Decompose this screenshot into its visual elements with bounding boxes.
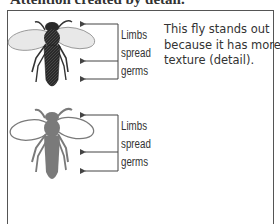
silhouette-fly-icon — [9, 109, 96, 179]
caption-line: This fly stands out — [164, 22, 279, 38]
label-line: Limbs — [121, 117, 151, 135]
label-line: germs — [121, 153, 151, 171]
label-line: spread — [121, 44, 151, 62]
label-line: Limbs — [121, 26, 151, 44]
caption: This fly stands out because it has more … — [164, 22, 279, 69]
label-line: spread — [121, 135, 151, 153]
top-callout-arrows — [85, 24, 118, 79]
label-line: germs — [121, 62, 151, 80]
caption-line: texture (detail). — [164, 53, 279, 69]
top-callout-label: Limbs spread germs — [121, 26, 151, 80]
bottom-callout-label: Limbs spread germs — [121, 117, 151, 171]
bottom-callout-arrows — [85, 115, 118, 171]
detailed-fly-icon — [7, 21, 97, 86]
caption-line: because it has more — [164, 38, 279, 54]
